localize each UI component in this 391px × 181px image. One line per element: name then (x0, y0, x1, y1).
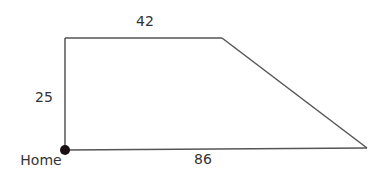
edge-label-left: 25 (35, 89, 53, 105)
edge-label-top: 42 (136, 13, 154, 29)
home-label: Home (20, 152, 61, 168)
edge-slant (222, 38, 367, 148)
edge-label-bottom: 86 (194, 151, 212, 167)
edge-bottom (65, 148, 367, 150)
